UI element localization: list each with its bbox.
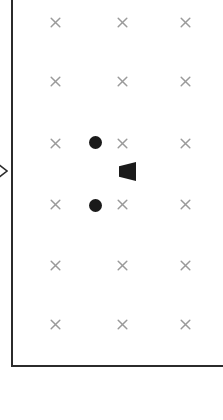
- x-marker: [116, 259, 129, 272]
- x-marker: [116, 198, 129, 211]
- x-marker: [179, 318, 192, 331]
- x-marker: [49, 75, 62, 88]
- x-marker: [179, 75, 192, 88]
- x-marker: [116, 16, 129, 29]
- filled-circle-upper: [89, 136, 102, 149]
- x-marker: [49, 137, 62, 150]
- x-marker: [116, 318, 129, 331]
- wedge-pointer: [119, 162, 136, 185]
- diagram-canvas: [0, 0, 223, 420]
- x-marker: [116, 137, 129, 150]
- edge-chevron: [0, 162, 8, 184]
- x-marker: [179, 198, 192, 211]
- x-marker: [49, 16, 62, 29]
- filled-circle-lower: [89, 199, 102, 212]
- x-marker: [49, 259, 62, 272]
- x-marker: [179, 137, 192, 150]
- frame-left-rule: [11, 0, 13, 367]
- x-marker: [49, 198, 62, 211]
- x-marker: [179, 259, 192, 272]
- x-marker: [116, 75, 129, 88]
- x-marker: [49, 318, 62, 331]
- frame-bottom-rule: [11, 365, 223, 367]
- x-marker: [179, 16, 192, 29]
